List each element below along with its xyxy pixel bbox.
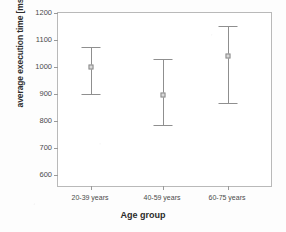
data-point-marker xyxy=(161,93,166,98)
data-point-marker xyxy=(226,54,231,59)
plot-area: 1200 1100 1000 900 800 700 600 xyxy=(57,12,272,187)
data-point-marker xyxy=(89,65,94,70)
error-bar-cap-lower xyxy=(82,94,101,95)
error-bar-line xyxy=(228,26,229,103)
y-tick-mark xyxy=(54,67,58,68)
error-bar-line xyxy=(91,47,92,94)
x-tick-mark xyxy=(91,186,92,190)
x-tick-label-group-1: 20-39 years xyxy=(72,194,109,201)
x-axis-title: Age group xyxy=(0,210,286,220)
x-tick-mark xyxy=(228,186,229,190)
y-tick-label: 800 xyxy=(18,116,52,125)
error-bar-cap-lower xyxy=(154,125,173,126)
y-tick-label: 900 xyxy=(18,89,52,98)
error-bar-cap-upper xyxy=(219,26,238,27)
x-tick-mark xyxy=(163,186,164,190)
y-tick-mark xyxy=(54,40,58,41)
x-tick-label-group-2: 40-59 years xyxy=(144,194,181,201)
y-tick-mark xyxy=(54,94,58,95)
y-tick-label: 600 xyxy=(18,170,52,179)
y-tick-mark xyxy=(54,121,58,122)
error-bar-cap-lower xyxy=(219,103,238,104)
error-bar-cap-upper xyxy=(154,59,173,60)
figure-canvas: average execution time [msec] 1200 1100 … xyxy=(0,0,286,232)
error-bar-cap-upper xyxy=(82,47,101,48)
y-tick-mark xyxy=(54,13,58,14)
y-tick-label: 700 xyxy=(18,143,52,152)
y-tick-label: 1100 xyxy=(18,35,52,44)
y-tick-label: 1000 xyxy=(18,62,52,71)
x-tick-label-group-3: 60-75 years xyxy=(209,194,246,201)
y-tick-mark xyxy=(54,175,58,176)
y-tick-mark xyxy=(54,148,58,149)
y-tick-label: 1200 xyxy=(18,8,52,17)
